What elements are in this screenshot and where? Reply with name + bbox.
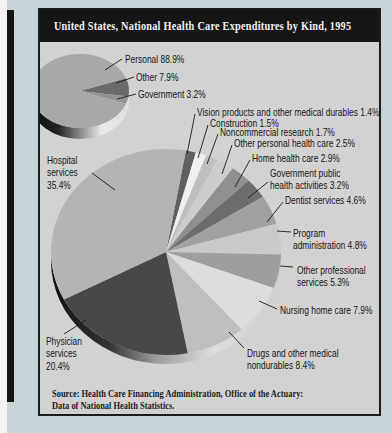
slice-label-dentist-services: Dentist services 4.6% xyxy=(285,194,366,206)
slice-label-physician-services: Physician services 20.4% xyxy=(46,335,82,372)
figure-title-bar: United States, National Health Care Expe… xyxy=(40,10,379,42)
slice-label-other: Other 7.9% xyxy=(136,71,179,83)
adjacent-page-edge xyxy=(0,0,7,433)
figure-panel: Other 7.9%Government 3.2%Personal 88.9%V… xyxy=(38,8,381,416)
slice-label-other-personal-health-care: Other personal health care 2.5% xyxy=(234,137,355,149)
figure-title: United States, National Health Care Expe… xyxy=(40,19,351,34)
chart-area: Other 7.9%Government 3.2%Personal 88.9%V… xyxy=(40,10,379,414)
leader-line xyxy=(198,125,208,158)
slice-label-other-professional-services: Other professional services 5.3% xyxy=(297,264,366,289)
source-note: Source: Health Care Financing Administra… xyxy=(52,388,303,411)
slice-label-program-administration: Program administration 4.8% xyxy=(293,227,367,252)
slice-label-hospital-services: Hospital services 35.4% xyxy=(47,154,78,191)
source-line-1: Source: Health Care Financing Administra… xyxy=(52,388,303,400)
leader-line xyxy=(187,114,195,154)
slice-label-drugs-and-other-medical-nondurables: Drugs and other medical nondurables 8.4% xyxy=(247,347,339,372)
slice-label-government: Government 3.2% xyxy=(138,88,206,100)
leader-line xyxy=(277,231,291,232)
slice-label-personal: Personal 88.9% xyxy=(125,53,184,65)
slice-label-nursing-home-care: Nursing home care 7.9% xyxy=(280,304,372,316)
source-line-2: Data of National Health Statistics. xyxy=(52,400,303,412)
slice-label-government-public-health-activities: Government public health activities 3.2% xyxy=(270,167,349,192)
book-gutter-shadow xyxy=(7,10,14,402)
slice-label-home-health-care: Home health care 2.9% xyxy=(252,152,340,164)
leader-line xyxy=(280,266,293,267)
